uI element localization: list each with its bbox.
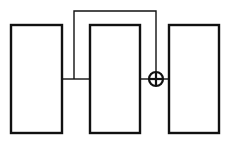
block-1 bbox=[11, 25, 62, 133]
summing-junction-icon bbox=[149, 72, 163, 86]
block-3 bbox=[169, 25, 219, 133]
block-2 bbox=[90, 25, 140, 133]
block-diagram bbox=[0, 0, 230, 146]
